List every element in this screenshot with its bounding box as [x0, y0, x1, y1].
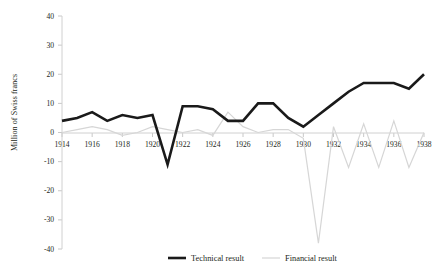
y-axis-tick-group: 403020100-10-20-30-40 [44, 12, 62, 254]
x-axis-tick-label: 1924 [205, 140, 220, 149]
y-axis-tick-label: -10 [44, 157, 54, 166]
legend-label: Technical result [191, 254, 245, 263]
x-axis-tick-group: 1914191619181920192219241926192819301932… [54, 133, 431, 149]
y-axis-tick-label: -20 [44, 186, 54, 195]
x-axis-tick-label: 1922 [175, 140, 190, 149]
legend-label: Financial result [285, 254, 338, 263]
y-axis-tick-label: -30 [44, 215, 54, 224]
y-axis-tick-label: 0 [50, 128, 54, 137]
y-axis-tick-label: 30 [46, 41, 54, 50]
x-axis-tick-label: 1926 [235, 140, 250, 149]
x-axis-tick-label: 1918 [115, 140, 130, 149]
y-axis-tick-label: -40 [44, 245, 54, 254]
series-group [62, 74, 424, 243]
y-axis-tick-label: 40 [46, 12, 54, 21]
y-axis-tick-label: 10 [46, 99, 54, 108]
x-axis-tick-label: 1916 [85, 140, 100, 149]
series-line [62, 74, 424, 164]
x-axis-tick-label: 1928 [266, 140, 281, 149]
x-axis-tick-label: 1936 [386, 140, 401, 149]
y-axis-tick-label: 20 [46, 70, 54, 79]
x-axis-tick-label: 1920 [145, 140, 160, 149]
series-line [62, 112, 424, 243]
chart-legend: Technical resultFinancial result [168, 254, 338, 263]
chart-plot: 403020100-10-20-30-40 191419161918192019… [0, 0, 436, 277]
chart-container: Million of Swiss francs 403020100-10-20-… [0, 0, 436, 277]
